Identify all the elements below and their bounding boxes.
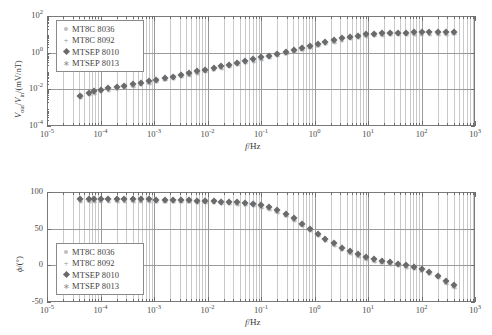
x-axis-tick-top — [138, 16, 139, 19]
legend-marker-star-icon: ∗ — [60, 58, 72, 69]
x-axis-tick-top — [95, 16, 96, 19]
x-axis-tick-top — [249, 192, 250, 195]
x-axis-tick-top — [245, 192, 246, 195]
y-axis-minor-tick — [47, 113, 49, 114]
legend-marker-dot-icon — [60, 23, 72, 34]
x-axis-tick — [180, 299, 181, 302]
x-axis-tick — [347, 123, 348, 126]
gridline-vertical — [309, 16, 310, 126]
y-axis-tick-label: 10-4 — [9, 120, 43, 130]
gridline-vertical — [253, 16, 254, 126]
gridline-vertical — [287, 16, 288, 126]
x-axis-tick-top — [303, 16, 304, 19]
gridline-vertical — [245, 16, 246, 126]
legend-item[interactable]: ∗MTSEP 8013 — [60, 281, 139, 293]
gridline-vertical — [152, 16, 153, 126]
x-axis-tick-top — [331, 16, 332, 19]
gridline-vertical — [438, 192, 439, 302]
y-axis-minor-tick — [47, 72, 49, 73]
gridline-vertical — [154, 16, 155, 126]
x-axis-tick-top — [413, 192, 414, 195]
x-axis-tick-top — [438, 16, 439, 19]
legend-item[interactable]: MTSEP 8010 — [60, 46, 139, 58]
y-axis-tick — [47, 265, 51, 266]
y-axis-minor-tick — [47, 54, 49, 55]
gridline-vertical — [309, 192, 310, 302]
x-axis-tick — [363, 299, 364, 302]
y-axis-minor-tick — [47, 91, 49, 92]
gridline-vertical — [312, 16, 313, 126]
x-axis-tick — [459, 123, 460, 126]
y-axis-tick-right — [471, 192, 475, 193]
x-axis-tick — [368, 297, 369, 302]
x-axis-title: f/Hz — [245, 317, 261, 327]
x-axis-tick-label: 100 — [295, 305, 335, 315]
y-axis-minor-tick — [47, 26, 49, 27]
legend-item-label: MTSEP 8010 — [72, 47, 119, 57]
x-axis-tick-top — [394, 16, 395, 19]
x-axis-tick — [309, 299, 310, 302]
x-axis-tick — [142, 299, 143, 302]
gridline-vertical — [249, 16, 250, 126]
x-axis-tick-top — [356, 16, 357, 19]
x-axis-tick — [366, 123, 367, 126]
x-axis-tick-top — [154, 16, 155, 21]
x-axis-tick — [416, 299, 417, 302]
x-axis-tick-label: 10-1 — [241, 305, 281, 315]
y-axis-minor-tick — [47, 109, 49, 110]
x-axis-tick — [73, 299, 74, 302]
x-axis-tick — [117, 299, 118, 302]
x-axis-tick-top — [366, 16, 367, 19]
x-axis-tick — [89, 299, 90, 302]
gridline-vertical — [149, 192, 150, 302]
gridline-vertical — [394, 192, 395, 302]
legend: MT8C 8036+MT8C 8092MTSEP 8010∗MTSEP 8013 — [56, 243, 144, 295]
gridline-vertical — [202, 192, 203, 302]
x-axis-tick-top — [92, 16, 93, 19]
x-axis-tick — [142, 123, 143, 126]
y-axis-minor-tick — [47, 81, 49, 82]
gridline-vertical — [470, 192, 471, 302]
x-axis-tick — [261, 121, 262, 126]
gridline-vertical — [312, 192, 313, 302]
legend-item[interactable]: MT8C 8036 — [60, 23, 139, 35]
gridline-vertical — [277, 16, 278, 126]
y-axis-minor-tick — [47, 73, 49, 74]
x-axis-tick — [366, 299, 367, 302]
x-axis-tick — [253, 123, 254, 126]
y-axis-minor-tick — [47, 29, 49, 30]
x-axis-tick-top — [384, 16, 385, 19]
gridline-vertical — [240, 16, 241, 126]
x-axis-tick-top — [126, 16, 127, 19]
legend-item-label: MT8C 8036 — [72, 24, 115, 34]
x-axis-tick — [384, 299, 385, 302]
legend-item[interactable]: MT8C 8036 — [60, 246, 139, 258]
x-axis-tick-top — [133, 16, 134, 19]
x-axis-tick — [149, 123, 150, 126]
x-axis-tick-top — [79, 16, 80, 19]
x-axis-tick-top — [170, 16, 171, 19]
x-axis-tick-top — [454, 16, 455, 19]
legend-item[interactable]: +MT8C 8092 — [60, 258, 139, 270]
gridline-vertical — [180, 192, 181, 302]
legend-item[interactable]: +MT8C 8092 — [60, 35, 139, 47]
gridline-vertical — [315, 192, 316, 302]
x-axis-tick — [352, 299, 353, 302]
x-axis-tick-top — [63, 16, 64, 19]
legend-item[interactable]: MTSEP 8010 — [60, 269, 139, 281]
gridline-vertical — [470, 16, 471, 126]
legend-marker-dot-icon — [60, 246, 72, 257]
y-axis-minor-tick — [47, 37, 49, 38]
x-axis-tick-top — [205, 16, 206, 19]
y-axis-minor-tick — [47, 112, 49, 113]
x-axis-tick — [312, 123, 313, 126]
x-axis-tick-top — [233, 192, 234, 195]
y-axis-minor-tick — [47, 90, 49, 91]
x-axis-tick — [463, 299, 464, 302]
x-axis-tick-top — [309, 16, 310, 19]
x-axis-tick-top — [363, 192, 364, 195]
x-axis-tick — [95, 299, 96, 302]
legend-item[interactable]: ∗MTSEP 8013 — [60, 58, 139, 70]
x-axis-tick — [208, 297, 209, 302]
gridline-vertical — [298, 192, 299, 302]
